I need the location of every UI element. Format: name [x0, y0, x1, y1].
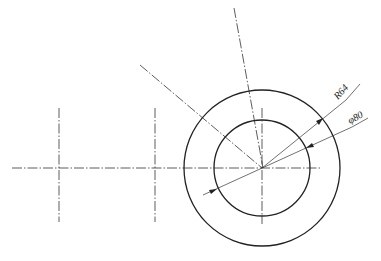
radius-arrowhead [316, 118, 323, 125]
radius-text-underline [346, 84, 360, 100]
radius-label: R64 [331, 82, 351, 102]
diameter-label: φ80 [346, 109, 365, 126]
radius-dimension: R64 [262, 82, 360, 168]
radius-leader-line [262, 100, 346, 168]
diameter-arrowhead-right [306, 143, 314, 148]
diameter-arrowhead-left [209, 189, 217, 194]
diameter-dimension: φ80 [203, 109, 368, 195]
technical-drawing: R64 φ80 [0, 0, 381, 261]
angled-centerline-left [140, 65, 262, 168]
angled-centerline-top [234, 8, 263, 168]
